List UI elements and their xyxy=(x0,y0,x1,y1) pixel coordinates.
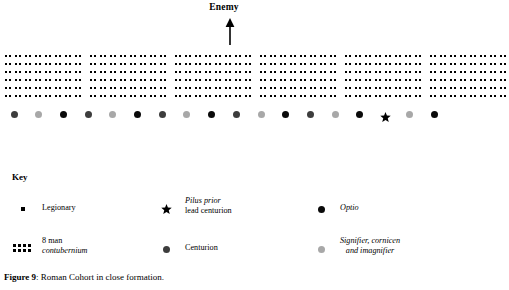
filled-circle-icon xyxy=(318,246,325,253)
legionary-dot xyxy=(304,63,307,66)
legionary-dot xyxy=(434,95,437,98)
legionary-dot xyxy=(369,71,372,74)
legionary-dot xyxy=(110,63,113,66)
legionary-dot xyxy=(45,79,48,82)
century-block xyxy=(429,52,509,100)
legionary-dot xyxy=(484,55,487,58)
legionary-dot xyxy=(235,87,238,90)
legionary-dot xyxy=(284,79,287,82)
legionary-dot xyxy=(334,55,337,58)
legionary-dot xyxy=(484,63,487,66)
legionary-dot xyxy=(59,87,62,90)
legionary-dot xyxy=(480,55,483,58)
filled-circle-icon xyxy=(60,111,67,118)
filled-circle-icon xyxy=(258,111,265,118)
contubernium-block xyxy=(159,52,167,100)
legionary-dot xyxy=(134,95,137,98)
key-entry-line: Signifier, cornicen xyxy=(340,236,400,246)
legionary-dot xyxy=(124,79,127,82)
legionary-dot xyxy=(359,87,362,90)
legionary-dot xyxy=(150,63,153,66)
legionary-dot xyxy=(464,63,467,66)
legionary-dot xyxy=(274,79,277,82)
legionary-dot xyxy=(49,95,52,98)
marker-signifer xyxy=(331,110,340,119)
legionary-dot xyxy=(229,95,232,98)
legionary-dot xyxy=(179,95,182,98)
legionary-dot xyxy=(15,87,18,90)
legionary-dot xyxy=(324,95,327,98)
legionary-dot xyxy=(280,63,283,66)
legionary-dot xyxy=(274,55,277,58)
legionary-dot xyxy=(45,55,48,58)
legionary-dot xyxy=(225,63,228,66)
legionary-dot xyxy=(59,71,62,74)
legionary-dot xyxy=(15,63,18,66)
filled-circle-icon xyxy=(332,111,339,118)
legionary-dot xyxy=(490,87,493,90)
legionary-dot xyxy=(504,87,507,90)
legionary-dot xyxy=(464,95,467,98)
legionary-dot xyxy=(284,95,287,98)
legionary-dot xyxy=(249,87,252,90)
legionary-dot xyxy=(355,63,358,66)
legionary-dot xyxy=(264,87,267,90)
legionary-dot xyxy=(415,63,418,66)
contubernium-block xyxy=(259,52,267,100)
legionary-dot xyxy=(330,71,333,74)
legionary-dot xyxy=(415,95,418,98)
legionary-dot xyxy=(379,87,382,90)
legionary-dot xyxy=(199,79,202,82)
legionary-dot xyxy=(284,71,287,74)
legionary-dot xyxy=(474,71,477,74)
legionary-dot xyxy=(409,79,412,82)
square-glyph xyxy=(23,244,26,247)
legionary-dot xyxy=(100,87,103,90)
legionary-dot xyxy=(395,55,398,58)
filled-circle-icon xyxy=(163,246,170,253)
legionary-dot xyxy=(29,87,32,90)
legionary-dot xyxy=(300,55,303,58)
legionary-dot xyxy=(189,79,192,82)
legionary-dot xyxy=(245,63,248,66)
legionary-dot xyxy=(484,79,487,82)
legionary-dot xyxy=(460,71,463,74)
legionary-dot xyxy=(365,95,368,98)
legionary-dot xyxy=(235,71,238,74)
legionary-dot xyxy=(140,55,143,58)
legionary-dot xyxy=(39,87,42,90)
legionary-dot xyxy=(15,95,18,98)
legionary-dot xyxy=(284,63,287,66)
contubernium-block xyxy=(364,52,372,100)
legionary-dot xyxy=(264,55,267,58)
legionary-dot xyxy=(219,55,222,58)
small-square-icon xyxy=(12,198,34,220)
legionary-dot xyxy=(239,55,242,58)
contubernium-block xyxy=(489,52,497,100)
legionary-dot xyxy=(5,63,8,66)
legionary-dot xyxy=(395,79,398,82)
legionary-dot xyxy=(310,95,313,98)
marker-pilus-prior xyxy=(380,109,391,120)
legionary-dot xyxy=(55,63,58,66)
caption-text: Roman Cohort in close formation. xyxy=(41,272,164,282)
legionary-dot xyxy=(5,79,8,82)
legionary-dot xyxy=(379,71,382,74)
legionary-dot xyxy=(260,87,263,90)
legionary-dot xyxy=(164,79,167,82)
legionary-dot xyxy=(320,55,323,58)
legionary-dot xyxy=(45,63,48,66)
arrow-up-icon xyxy=(214,16,246,46)
legionary-dot xyxy=(304,71,307,74)
legionary-dot xyxy=(55,71,58,74)
legionary-dot xyxy=(454,95,457,98)
square-glyph xyxy=(21,207,24,210)
legionary-dot xyxy=(494,71,497,74)
contubernium-block xyxy=(214,52,222,100)
legionary-dot xyxy=(399,79,402,82)
legionary-dot xyxy=(430,55,433,58)
legionary-dot xyxy=(294,87,297,90)
legionary-dot xyxy=(389,87,392,90)
legionary-dot xyxy=(494,55,497,58)
legionary-dot xyxy=(369,63,372,66)
